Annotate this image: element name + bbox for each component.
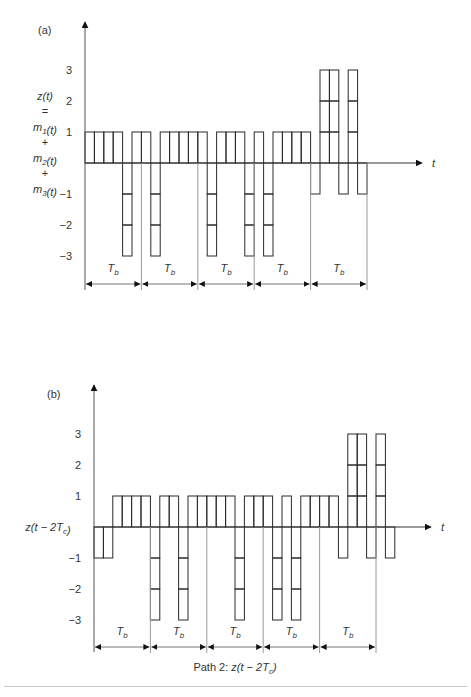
bit-period-label: Tb bbox=[108, 262, 120, 277]
panel-a: (a) z(t)=m1(t)+m2(t)+m3(t) 321−1−2−3 t T… bbox=[33, 22, 436, 290]
chip-cell bbox=[301, 132, 310, 163]
chip-cell bbox=[151, 194, 160, 225]
bit-period-label: Tb bbox=[229, 625, 241, 640]
multipath-chip-waveform-figure: (a) z(t)=m1(t)+m2(t)+m3(t) 321−1−2−3 t T… bbox=[0, 0, 471, 697]
y-label-term: z(t) bbox=[36, 90, 53, 102]
chip-cell bbox=[179, 132, 188, 163]
chip-cell bbox=[311, 163, 320, 194]
chip-cell bbox=[104, 132, 113, 163]
chip-cell bbox=[207, 496, 216, 527]
y-label-operator: = bbox=[42, 105, 48, 117]
chip-cell bbox=[320, 132, 329, 163]
chip-cell bbox=[170, 132, 179, 163]
y-label-term: m1(t) bbox=[33, 121, 57, 136]
chip-cell bbox=[179, 527, 188, 558]
chip-cell bbox=[263, 496, 272, 527]
chip-cell bbox=[151, 225, 160, 256]
chip-cell bbox=[282, 132, 291, 163]
bit-period-label: Tb bbox=[277, 262, 289, 277]
chip-cell bbox=[132, 132, 141, 163]
chip-cell bbox=[197, 496, 206, 527]
chip-cell bbox=[320, 70, 329, 101]
chip-cell bbox=[151, 163, 160, 194]
chip-cell bbox=[207, 194, 216, 225]
panel-a-y-ticks: 321−1−2−3 bbox=[59, 64, 72, 262]
chip-cell bbox=[150, 589, 159, 620]
panel-b: (b) z(t − 2Tc) 321−1−2−3 t TbTbTbTbTb Pa… bbox=[24, 385, 445, 676]
chip-cell bbox=[235, 589, 244, 620]
chip-cell bbox=[291, 589, 300, 620]
chip-cell bbox=[207, 163, 216, 194]
chip-cell bbox=[348, 101, 357, 132]
bit-period-label: Tb bbox=[220, 262, 232, 277]
chip-cell bbox=[357, 434, 366, 465]
chip-cell bbox=[264, 225, 273, 256]
y-tick-label: 3 bbox=[75, 428, 81, 440]
panel-b-label: (b) bbox=[47, 388, 60, 400]
y-tick-label: −3 bbox=[59, 250, 72, 262]
chip-cell bbox=[348, 465, 357, 496]
chip-cell bbox=[348, 132, 357, 163]
y-label-delayed-signal: z(t − 2Tc) bbox=[24, 521, 71, 536]
panel-b-bit-period-dimensions: TbTbTbTbTb bbox=[95, 527, 376, 653]
y-label-operator: + bbox=[42, 167, 48, 179]
chip-cell bbox=[179, 589, 188, 620]
chip-cell bbox=[292, 132, 301, 163]
chip-cell bbox=[141, 132, 150, 163]
chip-cell bbox=[85, 132, 94, 163]
chip-cell bbox=[235, 558, 244, 589]
chip-cell bbox=[207, 225, 216, 256]
panel-b-x-axis-label: t bbox=[441, 521, 445, 533]
chip-cell bbox=[329, 132, 338, 163]
panel-b-caption: Path 2: z(t − 2Tc) bbox=[193, 661, 277, 676]
chip-cell bbox=[376, 434, 385, 465]
chip-cell bbox=[310, 496, 319, 527]
chip-cell bbox=[273, 527, 282, 558]
chip-cell bbox=[338, 527, 347, 558]
chip-cell bbox=[264, 163, 273, 194]
bit-period-label: Tb bbox=[342, 625, 354, 640]
chip-cell bbox=[376, 496, 385, 527]
y-tick-label: −1 bbox=[59, 188, 72, 200]
chip-cell bbox=[198, 132, 207, 163]
chip-cell bbox=[160, 132, 169, 163]
chip-cell bbox=[245, 225, 254, 256]
chip-cell bbox=[123, 194, 132, 225]
chip-cell bbox=[339, 163, 348, 194]
chip-cell bbox=[179, 558, 188, 589]
y-tick-label: 3 bbox=[66, 64, 72, 76]
panel-b-y-label: z(t − 2Tc) bbox=[24, 521, 71, 536]
chip-cell bbox=[291, 527, 300, 558]
chip-cell bbox=[320, 101, 329, 132]
y-label-term: m2(t) bbox=[33, 152, 57, 167]
panel-a-label: (a) bbox=[38, 24, 51, 36]
chip-cell bbox=[320, 496, 329, 527]
panel-a-bit-period-dimensions: TbTbTbTbTb bbox=[86, 163, 367, 290]
chip-cell bbox=[226, 132, 235, 163]
y-label-operator: + bbox=[42, 136, 48, 148]
bit-period-label: Tb bbox=[173, 625, 185, 640]
chip-cell bbox=[273, 132, 282, 163]
footer-divider bbox=[4, 686, 467, 687]
panel-a-y-label: z(t)=m1(t)+m2(t)+m3(t) bbox=[33, 90, 57, 198]
chip-cell bbox=[123, 225, 132, 256]
y-tick-label: −1 bbox=[68, 552, 81, 564]
y-tick-label: 2 bbox=[66, 95, 72, 107]
chip-cell bbox=[160, 496, 169, 527]
chip-cell bbox=[348, 496, 357, 527]
chip-cell bbox=[348, 434, 357, 465]
chip-cell bbox=[244, 496, 253, 527]
chip-cell bbox=[169, 496, 178, 527]
chip-cell bbox=[348, 70, 357, 101]
y-tick-label: 1 bbox=[75, 490, 81, 502]
chip-cell bbox=[113, 132, 122, 163]
y-tick-label: 1 bbox=[66, 126, 72, 138]
chip-cell bbox=[122, 496, 131, 527]
chip-cell bbox=[188, 496, 197, 527]
chip-cell bbox=[301, 496, 310, 527]
chip-cell bbox=[113, 496, 122, 527]
y-tick-label: 2 bbox=[75, 459, 81, 471]
chip-cell bbox=[245, 163, 254, 194]
chip-cell bbox=[329, 101, 338, 132]
y-tick-label: −3 bbox=[68, 614, 81, 626]
